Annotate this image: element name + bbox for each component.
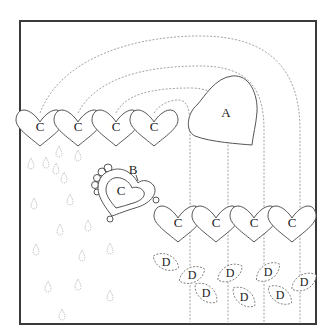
label-d: D [188,268,197,282]
label-c: C [212,215,221,230]
label-c: C [112,119,121,134]
label-d: D [202,286,211,300]
label-d: D [264,265,273,279]
label-d: D [226,266,235,280]
top-row-hearts: C C C C [16,110,178,146]
label-c: C [150,119,159,134]
label-b: B [129,162,138,177]
label-d: D [162,255,171,269]
bottom-row-hearts: C C C C [154,206,316,242]
label-d: D [276,288,285,302]
label-c: C [288,215,297,230]
label-c: C [250,215,259,230]
heart-a: A [188,76,257,145]
raindrops [28,146,113,320]
label-d: D [240,290,249,304]
label-d: D [300,275,309,289]
quilt-pattern-diagram: A C C C C [0,0,332,336]
label-c: C [174,215,183,230]
leaves: D D D D D D D D [150,249,320,313]
label-c: C [117,183,126,198]
label-a: A [221,105,231,120]
label-c: C [36,119,45,134]
label-c: C [74,119,83,134]
heart-b-scalloped: B C [92,162,160,223]
